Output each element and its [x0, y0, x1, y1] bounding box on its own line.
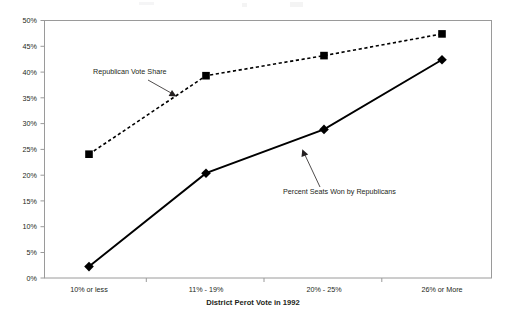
x-axis-labels: 10% or less 11% - 19% 20% - 25% 26% or M… — [70, 285, 462, 294]
annotation-republican-vote-share: Republican Vote Share — [93, 67, 177, 97]
data-point-rvs-1 — [202, 72, 210, 80]
chart-container: 50% 45% 40% 35% 30% 25% 20% 15% 10% 5% 0… — [0, 0, 507, 320]
series-line-republican-vote-share — [89, 34, 442, 154]
y-tick-label-20: 20% — [23, 171, 38, 180]
y-tick-label-0: 0% — [27, 274, 38, 283]
data-point-psw-2 — [319, 125, 329, 135]
x-tick-label-0: 10% or less — [70, 285, 108, 294]
scan-artifacts — [139, 2, 303, 7]
series-line-percent-seats-won — [89, 60, 442, 267]
annotation-leader-line-1 — [148, 80, 172, 94]
x-tick-label-3: 26% or More — [421, 285, 462, 294]
series-republican-vote-share — [85, 30, 446, 158]
y-tick-label-35: 35% — [23, 94, 38, 103]
line-chart: 50% 45% 40% 35% 30% 25% 20% 15% 10% 5% 0… — [0, 0, 507, 320]
y-axis-labels: 50% 45% 40% 35% 30% 25% 20% 15% 10% 5% 0… — [23, 16, 38, 283]
x-axis-ticks — [146, 278, 381, 282]
annotation-label-percent-seats-won: Percent Seats Won by Republicans — [283, 187, 396, 196]
data-point-rvs-3 — [438, 30, 446, 38]
y-tick-label-5: 5% — [27, 248, 38, 257]
annotation-arrowhead-2 — [302, 149, 309, 157]
data-point-rvs-2 — [320, 52, 328, 60]
y-tick-label-30: 30% — [23, 119, 38, 128]
y-tick-label-40: 40% — [23, 68, 38, 77]
data-point-psw-3 — [437, 55, 447, 65]
y-tick-label-15: 15% — [23, 197, 38, 206]
y-tick-label-25: 25% — [23, 145, 38, 154]
y-tick-label-45: 45% — [23, 42, 38, 51]
series-percent-seats-won — [84, 55, 447, 272]
y-tick-label-50: 50% — [23, 16, 38, 25]
annotation-leader-line-2 — [305, 154, 321, 187]
x-tick-label-1: 11% - 19% — [189, 285, 224, 294]
data-point-rvs-0 — [85, 150, 93, 158]
annotation-percent-seats-won: Percent Seats Won by Republicans — [283, 149, 396, 196]
annotation-label-republican-vote-share: Republican Vote Share — [93, 67, 167, 76]
x-axis-title: District Perot Vote in 1992 — [206, 298, 300, 307]
y-tick-label-10: 10% — [23, 222, 38, 231]
y-axis-ticks — [41, 21, 45, 279]
x-tick-label-2: 20% - 25% — [306, 285, 342, 294]
annotation-arrowhead-1 — [169, 90, 177, 97]
